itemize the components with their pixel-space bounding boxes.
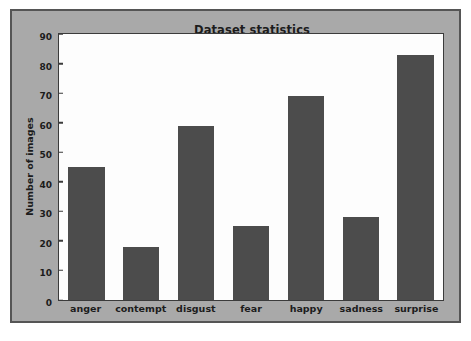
y-axis-tick: 30 (39, 202, 59, 221)
bar-contempt[interactable] (123, 247, 159, 300)
bar-slot (169, 34, 224, 300)
figure-frame: Dataset statistics Number of images 0102… (10, 9, 461, 323)
y-axis-tick: 70 (39, 84, 59, 103)
bar-disgust[interactable] (178, 126, 214, 300)
bar-slot (114, 34, 169, 300)
x-axis-tick-label-surprise: surprise (389, 303, 444, 314)
y-axis-label: Number of images (24, 87, 35, 247)
y-axis-tick-label: 80 (39, 61, 52, 71)
bar-fear[interactable] (233, 226, 269, 300)
x-axis-tick-label-anger: anger (58, 303, 113, 314)
bar-surprise[interactable] (397, 55, 433, 300)
y-axis-tick-label: 90 (39, 32, 52, 42)
bar-slot (388, 34, 443, 300)
y-axis-tick-label: 0 (46, 298, 52, 308)
bars-layer (59, 34, 443, 300)
bar-sadness[interactable] (343, 217, 379, 300)
bar-slot (278, 34, 333, 300)
bar-happy[interactable] (288, 96, 324, 300)
x-axis-tick-label-contempt: contempt (113, 303, 168, 314)
y-axis-tick: 90 (39, 25, 59, 44)
y-axis-tick: 60 (39, 113, 59, 132)
y-axis-tick: 80 (39, 54, 59, 73)
x-axis-tick-label-sadness: sadness (334, 303, 389, 314)
y-axis-tick: 10 (39, 261, 59, 280)
y-axis-tick: 50 (39, 143, 59, 162)
x-axis-tick-labels: angercontemptdisgustfearhappysadnesssurp… (58, 303, 444, 314)
x-axis-tick-label-fear: fear (223, 303, 278, 314)
y-axis-tick-label: 10 (39, 268, 52, 278)
y-axis-tick-label: 70 (39, 91, 52, 101)
y-axis-tick-label: 60 (39, 120, 52, 130)
bar-slot (333, 34, 388, 300)
bar-anger[interactable] (68, 167, 104, 300)
y-axis-tick-label: 50 (39, 150, 52, 160)
y-axis-tick: 20 (39, 231, 59, 250)
y-axis-tick-label: 20 (39, 238, 52, 248)
y-axis-tick: 40 (39, 172, 59, 191)
plot-area: 0102030405060708090 (58, 33, 444, 301)
x-axis-tick-label-happy: happy (279, 303, 334, 314)
bar-slot (224, 34, 279, 300)
y-axis-tick-label: 30 (39, 209, 52, 219)
y-axis-tick-label: 40 (39, 179, 52, 189)
x-axis-tick-label-disgust: disgust (168, 303, 223, 314)
y-axis-tick: 0 (46, 291, 59, 310)
bar-slot (59, 34, 114, 300)
